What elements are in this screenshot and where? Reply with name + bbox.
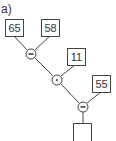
input-box-11: 11	[67, 48, 86, 66]
operator-minus-icon	[26, 49, 36, 59]
operator-minus-icon	[78, 102, 88, 112]
result-answer-box[interactable]	[73, 123, 92, 141]
operator-multiply-icon	[52, 75, 62, 85]
input-box-58: 58	[41, 19, 60, 37]
input-box-65: 65	[5, 19, 24, 37]
input-box-55: 55	[92, 75, 111, 93]
